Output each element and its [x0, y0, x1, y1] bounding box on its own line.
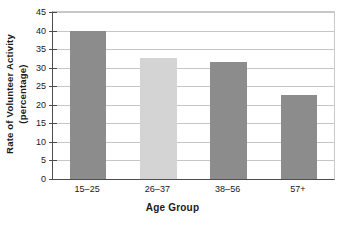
y-axis-tick — [49, 142, 57, 143]
y-axis-tick-label: 35 — [36, 44, 46, 54]
y-axis-tick — [49, 31, 57, 32]
x-axis-tick-label: 26–37 — [145, 184, 170, 194]
bar — [281, 95, 318, 179]
bar-chart-figure: Rate of Volunteer Activity (percentage) … — [0, 0, 345, 227]
y-axis-tick-label: 25 — [36, 81, 46, 91]
y-axis-title-line2: (percentage) — [16, 14, 29, 174]
y-axis-tick-label: 0 — [41, 174, 46, 184]
y-axis-tick-label: 30 — [36, 63, 46, 73]
y-axis-tick-label: 5 — [41, 155, 46, 165]
y-axis-title-line1: Rate of Volunteer Activity — [4, 34, 15, 154]
x-axis-title: Age Group — [0, 202, 345, 213]
x-axis-tick-label: 15–25 — [75, 184, 100, 194]
x-axis-tick-label: 57+ — [290, 184, 305, 194]
y-axis-title: Rate of Volunteer Activity (percentage) — [3, 14, 29, 174]
y-axis-tick — [49, 179, 57, 180]
y-axis-tick — [49, 86, 57, 87]
x-axis-tick-label: 38–56 — [215, 184, 240, 194]
gridline — [53, 12, 334, 13]
y-axis-tick — [49, 160, 57, 161]
y-axis-tick — [49, 68, 57, 69]
y-axis-tick — [49, 49, 57, 50]
y-axis-tick — [49, 12, 57, 13]
y-axis-tick-label: 45 — [36, 7, 46, 17]
y-axis-tick — [49, 105, 57, 106]
plot-area: 051015202530354045 — [52, 11, 335, 180]
y-axis-tick-label: 40 — [36, 26, 46, 36]
bar — [70, 31, 107, 179]
bar — [140, 58, 177, 179]
y-axis-tick-label: 10 — [36, 137, 46, 147]
y-axis-tick-label: 20 — [36, 100, 46, 110]
y-axis-tick-label: 15 — [36, 118, 46, 128]
y-axis-tick — [49, 123, 57, 124]
bar — [210, 62, 247, 179]
